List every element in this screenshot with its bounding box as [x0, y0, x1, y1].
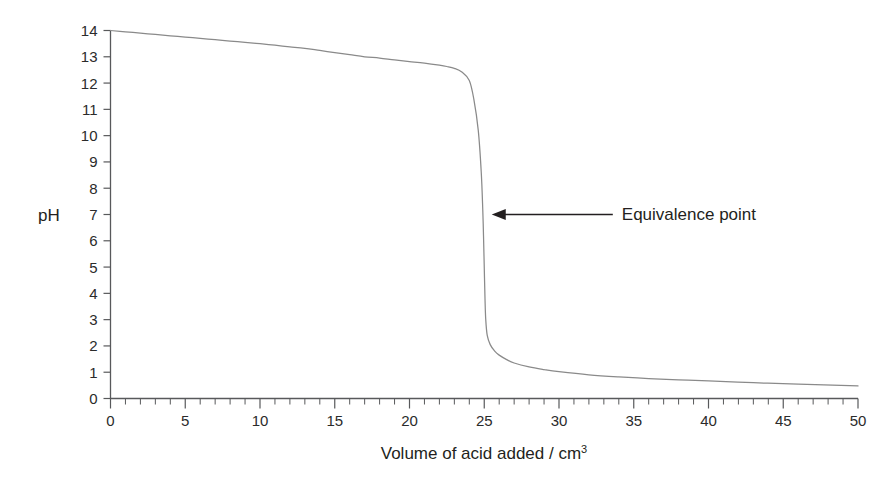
x-axis-label-text: Volume of acid added / cm: [381, 444, 581, 463]
x-tick-label: 15: [326, 412, 343, 429]
y-axis-tick-labels: 01234567891011121314: [81, 22, 98, 407]
y-tick-label: 8: [89, 180, 97, 197]
y-tick-label: 4: [89, 285, 97, 302]
x-axis-major-ticks: [111, 399, 859, 409]
x-tick-label: 40: [700, 412, 717, 429]
y-tick-label: 2: [89, 337, 97, 354]
x-axis-label-superscript: 3: [581, 443, 587, 455]
x-axis-label: Volume of acid added / cm3: [381, 443, 587, 463]
y-axis-ticks: [104, 31, 111, 399]
y-tick-label: 7: [89, 206, 97, 223]
y-tick-label: 14: [81, 22, 98, 39]
y-tick-label: 5: [89, 259, 97, 276]
y-tick-label: 0: [89, 390, 97, 407]
y-tick-label: 3: [89, 311, 97, 328]
x-tick-label: 20: [401, 412, 418, 429]
y-tick-label: 13: [81, 48, 98, 65]
x-tick-label: 5: [181, 412, 189, 429]
x-tick-label: 30: [551, 412, 568, 429]
y-tick-label: 9: [89, 153, 97, 170]
x-tick-label: 25: [476, 412, 493, 429]
y-axis-label: pH: [38, 206, 60, 225]
annotation-left-arrow-icon: [492, 209, 506, 220]
y-tick-label: 12: [81, 75, 98, 92]
titration-curve-figure: 01234567891011121314 0510152025303540455…: [0, 0, 884, 480]
chart-canvas: 01234567891011121314 0510152025303540455…: [0, 0, 884, 480]
y-tick-label: 1: [89, 364, 97, 381]
y-tick-label: 10: [81, 127, 98, 144]
annotation-label: Equivalence point: [622, 205, 756, 224]
x-tick-label: 45: [775, 412, 792, 429]
x-axis-tick-labels: 05101520253035404550: [106, 412, 866, 429]
x-tick-label: 0: [106, 412, 114, 429]
x-tick-label: 35: [625, 412, 642, 429]
equivalence-point-annotation: Equivalence point: [492, 205, 757, 224]
y-tick-label: 6: [89, 232, 97, 249]
y-tick-label: 11: [82, 101, 98, 118]
x-tick-label: 50: [850, 412, 867, 429]
x-tick-label: 10: [252, 412, 269, 429]
